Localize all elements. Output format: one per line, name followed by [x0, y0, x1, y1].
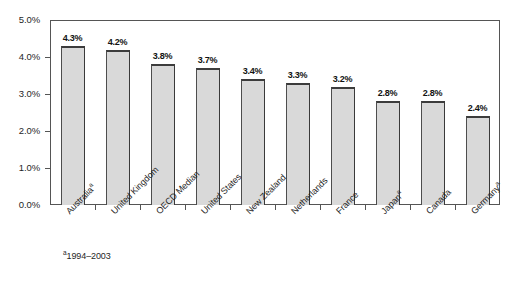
y-tick-label: 0.0% [19, 200, 40, 210]
bar[interactable] [241, 79, 265, 205]
bar-chart-figure: 0.0%1.0%2.0%3.0%4.0%5.0% 4.3%4.2%3.8%3.7… [0, 0, 524, 283]
bar-value-label: 4.3% [52, 33, 94, 43]
bar[interactable] [196, 68, 220, 205]
bar-group[interactable]: 2.8% [421, 20, 445, 205]
bar-group[interactable]: 2.8% [376, 20, 400, 205]
bar-value-label: 2.8% [367, 88, 409, 98]
bar-value-label: 4.2% [97, 37, 139, 47]
bar-group[interactable]: 3.4% [241, 20, 265, 205]
bar-group[interactable]: 4.3% [61, 20, 85, 205]
y-tick-label: 4.0% [19, 52, 40, 62]
y-tick-label: 3.0% [19, 89, 40, 99]
bar[interactable] [331, 87, 355, 205]
bar[interactable] [286, 83, 310, 205]
y-tick-label: 5.0% [19, 15, 40, 25]
bar[interactable] [421, 101, 445, 205]
x-axis-category-labels: AustraliaaUnited KingdomOECD MedianUnite… [50, 205, 510, 283]
bar-value-label: 3.4% [232, 66, 274, 76]
bar-group[interactable]: 3.3% [286, 20, 310, 205]
bar-value-label: 3.8% [142, 51, 184, 61]
bar-group[interactable]: 3.2% [331, 20, 355, 205]
bar-value-label: 3.2% [322, 74, 364, 84]
bar[interactable] [106, 50, 130, 205]
bar-value-label: 3.3% [277, 70, 319, 80]
y-tick-label: 2.0% [19, 126, 40, 136]
y-axis: 0.0%1.0%2.0%3.0%4.0%5.0% [0, 0, 46, 283]
footnote: a1994–2003 [63, 251, 111, 262]
y-tick-label: 1.0% [19, 163, 40, 173]
bar[interactable] [151, 64, 175, 205]
bar-value-label: 2.8% [412, 88, 454, 98]
bar-group[interactable]: 4.2% [106, 20, 130, 205]
footnote-text: 1994–2003 [67, 251, 111, 261]
bar-value-label: 2.4% [457, 103, 499, 113]
bar-value-label: 3.7% [187, 55, 229, 65]
bar-group[interactable]: 2.4% [466, 20, 490, 205]
bar[interactable] [61, 46, 85, 205]
